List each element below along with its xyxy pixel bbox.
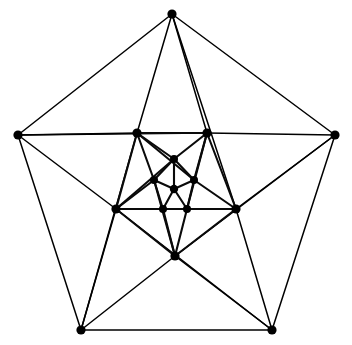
graph-vertex-m1 xyxy=(231,204,240,213)
graph-vertex-i4 xyxy=(150,176,158,184)
graph-vertex-i2 xyxy=(183,205,191,213)
graph-vertex-m0 xyxy=(202,128,211,137)
graph-diagram xyxy=(0,0,352,345)
graph-vertex-o0 xyxy=(167,9,176,18)
graph-vertex-c0 xyxy=(170,185,178,193)
graph-vertex-m4 xyxy=(132,128,141,137)
figure-background xyxy=(0,0,352,345)
graph-vertex-i0 xyxy=(170,155,178,163)
graph-vertex-m3 xyxy=(111,204,120,213)
graph-vertex-o2 xyxy=(267,325,276,334)
graph-vertex-o3 xyxy=(76,325,85,334)
graph-vertex-i1 xyxy=(190,176,198,184)
graph-vertex-i3 xyxy=(159,205,167,213)
graph-vertex-o1 xyxy=(330,130,339,139)
graph-vertex-m2 xyxy=(170,251,179,260)
figure-canvas xyxy=(0,0,352,345)
graph-vertex-o4 xyxy=(13,130,22,139)
